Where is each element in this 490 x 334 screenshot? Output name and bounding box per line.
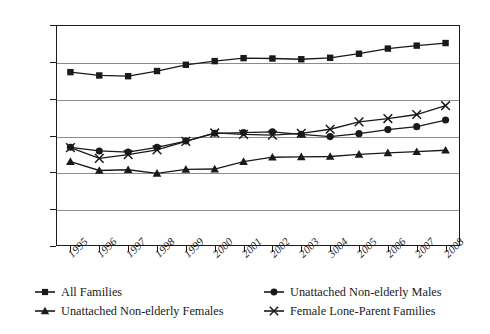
y-axis-tick-mark	[50, 246, 56, 247]
legend-item[interactable]: Unattached Non-elderly Females	[34, 305, 224, 317]
legend-marker-triangle-icon	[34, 305, 56, 317]
gridline	[57, 173, 459, 174]
legend-item[interactable]: All Families	[34, 286, 122, 298]
line-chart: 60,00050,00040,00030,00020,00010,0000 19…	[0, 0, 490, 334]
legend-label: Unattached Non-elderly Females	[61, 305, 224, 317]
gridline	[57, 137, 459, 138]
legend-item[interactable]: Unattached Non-elderly Males	[263, 286, 442, 298]
gridline	[57, 63, 459, 64]
legend-label: Unattached Non-elderly Males	[290, 286, 442, 298]
gridline	[57, 210, 459, 211]
legend-marker-x-icon	[263, 305, 285, 317]
legend-item[interactable]: Female Lone-Parent Families	[263, 305, 435, 317]
legend-marker-square-icon	[34, 286, 56, 298]
legend-label: Female Lone-Parent Families	[290, 305, 435, 317]
chart-legend: All FamiliesUnattached Non-elderly Males…	[0, 286, 490, 330]
gridline	[57, 100, 459, 101]
plot-area	[56, 25, 460, 246]
legend-label: All Families	[61, 286, 122, 298]
legend-marker-circle-icon	[263, 286, 285, 298]
